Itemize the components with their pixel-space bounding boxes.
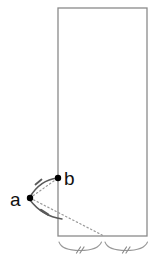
- geometry-diagram: a b: [0, 0, 159, 260]
- brace-right: [105, 242, 148, 251]
- dotted-line-a-to-bottom: [30, 198, 104, 236]
- arc-a-to-corner-lower: [30, 200, 62, 219]
- point-b-label: b: [64, 168, 75, 189]
- point-a-dot: [27, 195, 33, 201]
- point-a-label: a: [10, 189, 21, 210]
- point-b-dot: [55, 175, 61, 181]
- rectangle-shape: [58, 8, 147, 236]
- figure-canvas: a b: [0, 0, 159, 260]
- brace-left: [59, 242, 102, 251]
- dotted-line-a-to-b: [30, 178, 58, 198]
